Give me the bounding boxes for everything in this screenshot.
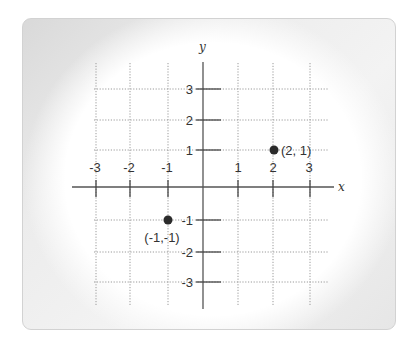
y-tick-label: -1 (181, 213, 193, 228)
y-ticks (196, 89, 221, 282)
point-neg1-neg1-label: (-1,-1) (144, 230, 179, 245)
point-2-1-label: (2, 1) (281, 143, 311, 158)
y-tick-label: -2 (181, 245, 193, 260)
x-tick-label: 1 (234, 160, 241, 175)
y-tick-label: 3 (186, 82, 193, 97)
point-2-1 (270, 146, 279, 155)
x-tick-label: -1 (161, 160, 173, 175)
point-neg1-neg1 (164, 216, 173, 225)
x-axis-label: x (338, 180, 345, 194)
y-tick-label: 1 (186, 143, 193, 158)
grid (94, 63, 328, 306)
y-tick-label: 2 (186, 113, 193, 128)
y-tick-label: -3 (181, 275, 193, 290)
coordinate-plane: -3 -2 -1 1 2 3 3 2 1 -1 -2 -3 x y (2, 1)… (0, 0, 416, 351)
x-tick-label: 2 (269, 160, 276, 175)
x-tick-label: -3 (89, 160, 101, 175)
x-tick-label: 3 (305, 160, 312, 175)
y-axis-label: y (198, 40, 206, 54)
x-tick-label: -2 (123, 160, 135, 175)
